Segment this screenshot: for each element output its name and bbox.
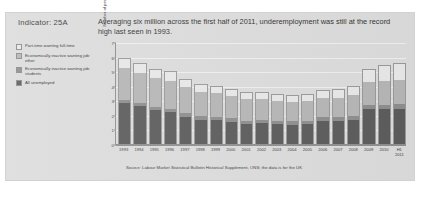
y-tick-mark	[114, 57, 116, 58]
bar-segment	[316, 90, 329, 98]
y-tick-mark	[114, 43, 116, 44]
bar-segment	[240, 99, 253, 121]
y-tick-label: 5	[112, 70, 114, 75]
x-tick-label: 2008	[347, 145, 360, 159]
y-tick-label: 1	[112, 128, 114, 133]
y-tick-label: 3	[112, 99, 114, 104]
chart-area: Number of people (millions) 01234567 199…	[102, 41, 408, 159]
bar-column	[301, 43, 314, 145]
y-tick-mark	[114, 72, 116, 73]
bar-column	[362, 43, 375, 145]
bar-segment	[347, 120, 360, 146]
bar-segment	[378, 109, 391, 145]
x-tick-label: 1999	[209, 145, 222, 159]
legend-item: All unemployed	[16, 80, 94, 87]
headline-text: Averaging six million across the first h…	[98, 17, 398, 37]
bar-segment	[301, 94, 314, 101]
bar-segment	[179, 79, 192, 88]
legend-item: Economically inactive wanting job: stude…	[16, 66, 94, 76]
bar-segment	[332, 121, 345, 145]
x-tick-label: 2006	[316, 145, 329, 159]
figure-page: Indicator: 25A Averaging six million acr…	[0, 0, 427, 198]
bar-segment	[316, 98, 329, 118]
bar-column	[164, 43, 177, 145]
bar-segment	[362, 109, 375, 145]
bar-column	[286, 43, 299, 145]
y-tick-mark	[114, 86, 116, 87]
x-tick-label: 2004	[285, 145, 298, 159]
legend-item-label: All unemployed	[25, 80, 54, 85]
x-tick-label: 2001	[240, 145, 253, 159]
bar-segment	[133, 73, 146, 103]
bar-segment	[378, 81, 391, 105]
bar-segment	[164, 71, 177, 80]
bar-column	[332, 43, 345, 145]
bar-column	[210, 43, 223, 145]
bar-segment	[286, 102, 299, 121]
y-tick-mark	[114, 130, 116, 131]
bar-segment	[164, 112, 177, 145]
x-tick-label: 2009	[362, 145, 375, 159]
figure-panel: Indicator: 25A Averaging six million acr…	[6, 13, 414, 180]
bar-segment	[301, 124, 314, 145]
bar-segment	[210, 93, 223, 117]
bar-segment	[301, 101, 314, 120]
bar-segment	[133, 63, 146, 73]
bar-column	[240, 43, 253, 145]
bar-segment	[362, 82, 375, 105]
x-tick-label: 1995	[148, 145, 161, 159]
x-tick-label: 2002	[255, 145, 268, 159]
bar-segment	[149, 110, 162, 145]
legend-swatch-icon	[16, 53, 22, 59]
chart-legend: Part-time wanting full-timeEconomically …	[16, 43, 94, 90]
y-tick-label: 4	[112, 84, 114, 89]
legend-item-label: Part-time wanting full-time	[25, 43, 75, 48]
bar-segment	[194, 120, 207, 146]
x-tick-label: 1997	[178, 145, 191, 159]
legend-item: Part-time wanting full-time	[16, 43, 94, 50]
bar-segment	[225, 96, 238, 118]
bar-segment	[271, 101, 284, 121]
bar-column	[347, 43, 360, 145]
bar-column	[133, 43, 146, 145]
x-tick-label: 1998	[194, 145, 207, 159]
bar-segment	[286, 95, 299, 102]
x-tick-label: 2005	[301, 145, 314, 159]
bar-segment	[271, 94, 284, 101]
bar-segment	[393, 63, 406, 80]
x-tick-label: 1996	[163, 145, 176, 159]
y-tick-label: 0	[112, 143, 114, 148]
bar-column	[378, 43, 391, 145]
bar-segment	[271, 124, 284, 145]
bar-column	[118, 43, 131, 145]
bar-segment	[118, 68, 131, 100]
bar-segment	[194, 92, 207, 116]
bar-segment	[316, 121, 329, 145]
bar-segment	[378, 65, 391, 81]
bar-column	[225, 43, 238, 145]
legend-swatch-icon	[16, 44, 22, 50]
bar-segment	[255, 92, 268, 99]
legend-swatch-icon	[16, 80, 22, 86]
bar-segment	[240, 124, 253, 145]
bar-column	[149, 43, 162, 145]
bar-column	[194, 43, 207, 145]
bar-segment	[164, 81, 177, 109]
x-tick-label: 2000	[224, 145, 237, 159]
x-tick-label: H12011	[393, 145, 406, 159]
bar-segment	[194, 84, 207, 92]
x-tick-label: 1993	[117, 145, 130, 159]
bar-segment	[118, 103, 131, 145]
bar-segment	[149, 78, 162, 107]
y-axis-title: Number of people (millions)	[102, 0, 112, 49]
bar-segment	[393, 109, 406, 145]
y-tick-label: 2	[112, 113, 114, 118]
legend-item: Economically inactive wanting job: other	[16, 53, 94, 63]
plot-area: 01234567	[115, 43, 406, 145]
x-axis-labels: 1993199419951996199719981999200020012002…	[117, 145, 406, 159]
bar-segment	[133, 106, 146, 145]
x-tick-label: 2007	[331, 145, 344, 159]
legend-item-label: Economically inactive wanting job: other	[25, 53, 94, 63]
bar-segment	[210, 86, 223, 93]
y-tick-mark	[114, 101, 116, 102]
